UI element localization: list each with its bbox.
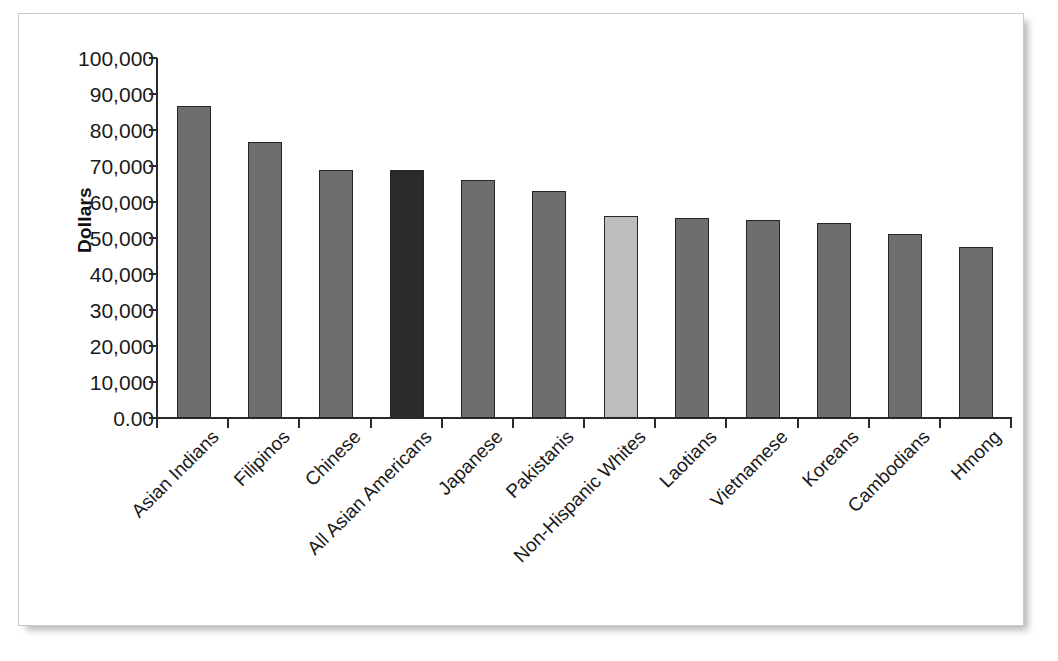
x-tick-label: Chinese [301, 426, 366, 491]
y-tick-label: 80,000 [49, 120, 154, 141]
x-tick-mark [156, 419, 158, 428]
bar [959, 247, 993, 418]
x-tick-label: Pakistanis [502, 426, 579, 503]
plot-area: Dollars 100,00090,00080,00070,00060,0005… [19, 14, 1023, 625]
x-tick-mark [797, 419, 799, 428]
x-tick-label: Hmong [947, 426, 1006, 485]
x-tick-mark [298, 419, 300, 428]
chart-figure: Dollars 100,00090,00080,00070,00060,0005… [18, 13, 1024, 626]
bar [248, 142, 282, 418]
x-tick-label: Laotians [655, 426, 721, 492]
y-tick-label: 0.00 [49, 408, 154, 429]
x-tick-mark [370, 419, 372, 428]
y-tick-label: 70,000 [49, 156, 154, 177]
y-tick-label: 30,000 [49, 300, 154, 321]
x-tick-mark [1010, 419, 1012, 428]
x-tick-label: Koreans [798, 426, 864, 492]
bar [888, 234, 922, 418]
x-tick-label: All Asian Americans [303, 426, 437, 560]
x-tick-mark [583, 419, 585, 428]
y-tick-mark [149, 57, 157, 59]
y-tick-label: 40,000 [49, 264, 154, 285]
y-tick-label: 10,000 [49, 372, 154, 393]
y-tick-label: 20,000 [49, 336, 154, 357]
y-tick-label: 100,000 [49, 48, 154, 69]
y-tick-label: 90,000 [49, 84, 154, 105]
x-tick-mark [512, 419, 514, 428]
y-tick-mark [149, 237, 157, 239]
x-tick-mark [654, 419, 656, 428]
y-tick-label: 60,000 [49, 192, 154, 213]
y-tick-mark [149, 129, 157, 131]
x-tick-mark [868, 419, 870, 428]
x-tick-mark [939, 419, 941, 428]
x-tick-mark [227, 419, 229, 428]
bar [461, 180, 495, 418]
y-tick-mark [149, 309, 157, 311]
x-tick-label: Japanese [434, 426, 508, 500]
y-tick-mark [149, 381, 157, 383]
bar [390, 170, 424, 418]
x-tick-label: Filipinos [229, 426, 294, 491]
bar [532, 191, 566, 418]
y-tick-mark [149, 165, 157, 167]
bar [177, 106, 211, 418]
y-tick-label: 50,000 [49, 228, 154, 249]
y-tick-mark [149, 93, 157, 95]
y-tick-mark [149, 273, 157, 275]
bar [817, 223, 851, 418]
x-tick-mark [441, 419, 443, 428]
bar [319, 170, 353, 418]
x-tick-label: Non-Hispanic Whites [509, 426, 650, 567]
bar-series [158, 58, 1012, 418]
bar [746, 220, 780, 418]
y-axis-tick-labels: 100,00090,00080,00070,00060,00050,00040,… [49, 14, 154, 625]
y-tick-mark [149, 201, 157, 203]
y-tick-mark [149, 345, 157, 347]
bar [604, 216, 638, 418]
bar [675, 218, 709, 418]
x-tick-mark [725, 419, 727, 428]
